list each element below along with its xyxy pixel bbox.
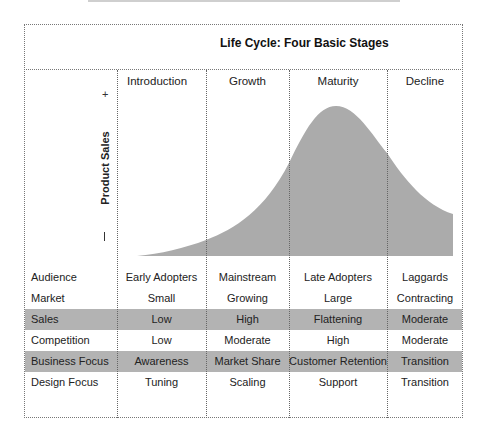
y-axis-label: Product Sales xyxy=(99,131,111,204)
stage-decline: Decline xyxy=(387,75,463,87)
cell: Early Adopters xyxy=(117,271,206,283)
cell: Market Share xyxy=(206,355,289,367)
stage-introduction: Introduction xyxy=(117,75,206,87)
cell: Tuning xyxy=(117,376,206,388)
stage-growth: Growth xyxy=(206,75,289,87)
cell: Late Adopters xyxy=(289,271,387,283)
cell: Moderate xyxy=(387,334,463,346)
cell: Flattening xyxy=(289,313,387,325)
cell: High xyxy=(289,334,387,346)
y-axis-high-marker: + xyxy=(102,88,108,100)
cell: Customer Retention xyxy=(289,355,387,367)
row-label: Business Focus xyxy=(31,355,109,367)
y-axis-low-marker xyxy=(104,232,105,241)
row-label: Competition xyxy=(31,334,90,346)
row-label: Market xyxy=(31,292,65,304)
cell: Low xyxy=(117,334,206,346)
cell: Moderate xyxy=(206,334,289,346)
cell: Moderate xyxy=(387,313,463,325)
row-label: Audience xyxy=(31,271,77,283)
cell: Low xyxy=(117,313,206,325)
cell: Scaling xyxy=(206,376,289,388)
stage-maturity: Maturity xyxy=(289,75,387,87)
cell: Contracting xyxy=(387,292,463,304)
cell: Growing xyxy=(206,292,289,304)
cell: Transition xyxy=(387,355,463,367)
cell: Large xyxy=(289,292,387,304)
cell: Transition xyxy=(387,376,463,388)
cell: High xyxy=(206,313,289,325)
cell: Small xyxy=(117,292,206,304)
cell: Awareness xyxy=(117,355,206,367)
cell: Laggards xyxy=(387,271,463,283)
row-label: Design Focus xyxy=(31,376,98,388)
row-label: Sales xyxy=(31,313,59,325)
cell: Mainstream xyxy=(206,271,289,283)
cell: Support xyxy=(289,376,387,388)
